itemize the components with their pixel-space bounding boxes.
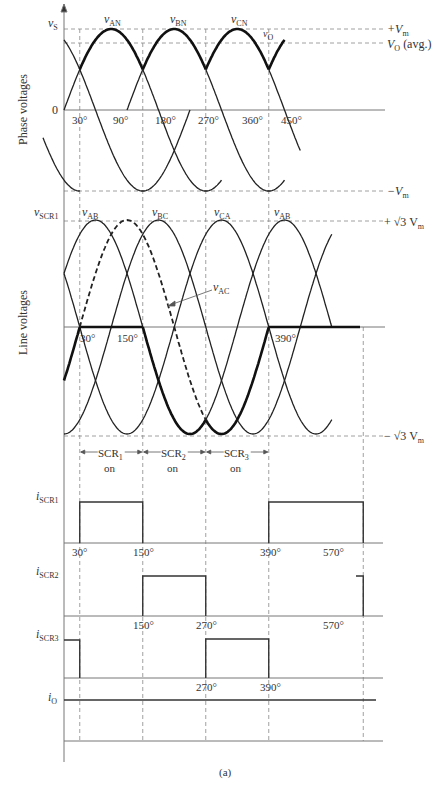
line-tick-390: 390° xyxy=(275,333,296,344)
scr1-on-state: on xyxy=(104,462,115,474)
iscr3-tick-390: 390° xyxy=(260,682,281,693)
io-label: iO xyxy=(48,691,57,708)
vo-avg-label: VO (avg.) xyxy=(387,38,431,55)
neg-vm-label: −Vm xyxy=(387,185,409,202)
vcn-label: vCN xyxy=(231,13,247,30)
vbn-label: vBN xyxy=(170,13,186,30)
scr2-on-state: on xyxy=(167,462,178,474)
tick-90: 90° xyxy=(113,115,128,126)
iscr1-label: iSCR1 xyxy=(36,490,58,507)
iscr1-tick-30: 30° xyxy=(72,547,87,558)
vab-label-2: vAB xyxy=(274,206,290,223)
phase-voltages-title: Phase voltages xyxy=(16,74,31,145)
iscr1-tick-390: 390° xyxy=(260,547,281,558)
line-tick-150: 150° xyxy=(117,333,138,344)
line-voltages-title: Line voltages xyxy=(16,290,31,355)
tick-360: 360° xyxy=(242,115,263,126)
iscr3-tick-270: 270° xyxy=(196,682,217,693)
vac-label: vAC xyxy=(213,281,229,298)
current-pulses xyxy=(64,502,376,700)
vs-axis-label: vS xyxy=(48,17,58,34)
pos-root3-vm-label: + √3 Vm xyxy=(384,216,424,233)
iscr3-label: iSCR3 xyxy=(36,628,58,645)
iscr2-label: iSCR2 xyxy=(36,565,58,582)
vbc-label: vBC xyxy=(152,206,168,223)
vscr1-axis-label: vSCR1 xyxy=(34,206,58,223)
waveform-diagram xyxy=(0,0,441,791)
bold-output-waveforms xyxy=(64,29,360,434)
vca-label: vCA xyxy=(214,206,230,223)
iscr1-tick-570: 570° xyxy=(323,547,344,558)
tick-30: 30° xyxy=(72,115,87,126)
vo-label: vO xyxy=(263,28,273,44)
line-tick-30: 30° xyxy=(80,333,95,344)
tick-270: 270° xyxy=(198,115,219,126)
iscr1-tick-150: 150° xyxy=(133,547,154,558)
neg-root3-vm-label: − √3 Vm xyxy=(384,430,424,447)
vab-label: vAB xyxy=(82,206,98,223)
scr3-on-state: on xyxy=(230,462,241,474)
iscr2-tick-570: 570° xyxy=(323,620,344,631)
iscr2-tick-150: 150° xyxy=(133,620,154,631)
van-label: vAN xyxy=(104,13,121,30)
tick-450: 450° xyxy=(281,115,302,126)
figure-caption: (a) xyxy=(219,766,231,778)
annotation-arrows xyxy=(81,290,268,454)
zero-label: 0 xyxy=(52,104,58,116)
iscr2-tick-270: 270° xyxy=(196,620,217,631)
tick-180: 180° xyxy=(155,115,176,126)
